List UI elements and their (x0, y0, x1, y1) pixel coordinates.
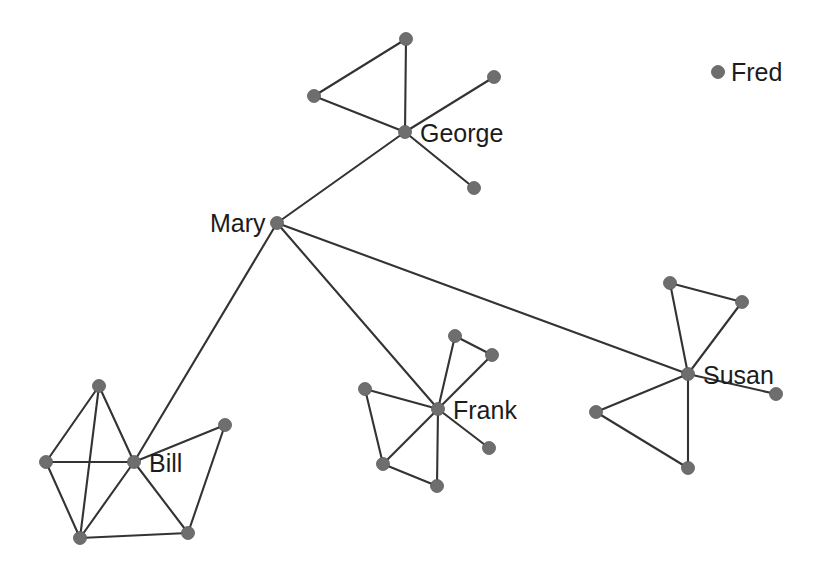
graph-node[interactable] (488, 71, 501, 84)
graph-edge (134, 223, 277, 462)
node-label-frank: Frank (453, 396, 517, 424)
graph-edge (80, 533, 188, 538)
node-label-george: George (420, 119, 503, 147)
graph-edge (277, 132, 405, 223)
graph-node[interactable] (74, 532, 87, 545)
graph-edge (99, 386, 134, 462)
graph-node[interactable] (431, 480, 444, 493)
graph-node-susan[interactable] (682, 368, 695, 381)
graph-edge (383, 464, 437, 486)
graph-node-mary[interactable] (271, 217, 284, 230)
graph-node-george[interactable] (399, 126, 412, 139)
graph-edge (670, 283, 742, 302)
network-graph-canvas: MaryGeorgeBillFrankSusan Fred (0, 0, 818, 582)
graph-node[interactable] (664, 277, 677, 290)
graph-node[interactable] (682, 462, 695, 475)
graph-edge (314, 39, 406, 96)
node-label-bill: Bill (149, 449, 182, 477)
legend-label-fred: Fred (731, 58, 782, 86)
graph-node[interactable] (483, 442, 496, 455)
graph-node[interactable] (40, 456, 53, 469)
node-label-susan: Susan (703, 361, 774, 389)
graph-edge (383, 409, 438, 464)
graph-node[interactable] (93, 380, 106, 393)
graph-edge (365, 389, 383, 464)
legend-dot-fred[interactable] (712, 66, 725, 79)
graph-node[interactable] (377, 458, 390, 471)
graph-node[interactable] (308, 90, 321, 103)
labels-layer: MaryGeorgeBillFrankSusan (149, 119, 774, 477)
graph-edge (277, 223, 438, 409)
graph-edge (437, 409, 438, 486)
graph-edge (188, 425, 225, 533)
graph-edge (596, 374, 688, 412)
graph-node[interactable] (182, 527, 195, 540)
graph-node[interactable] (486, 349, 499, 362)
legend-group: Fred (712, 58, 783, 86)
graph-node[interactable] (449, 330, 462, 343)
graph-node[interactable] (590, 406, 603, 419)
graph-node[interactable] (770, 388, 783, 401)
network-graph-svg: MaryGeorgeBillFrankSusan Fred (0, 0, 818, 582)
graph-edge (365, 389, 438, 409)
graph-node[interactable] (468, 182, 481, 195)
graph-node-frank[interactable] (432, 403, 445, 416)
graph-edge (596, 412, 688, 468)
graph-node[interactable] (736, 296, 749, 309)
graph-edge (670, 283, 688, 374)
graph-node-bill[interactable] (128, 456, 141, 469)
graph-edge (405, 39, 406, 132)
node-label-mary: Mary (210, 209, 266, 237)
graph-edge (46, 462, 80, 538)
graph-node[interactable] (219, 419, 232, 432)
graph-node[interactable] (359, 383, 372, 396)
graph-node[interactable] (400, 33, 413, 46)
graph-edge (277, 223, 688, 374)
graph-edge (314, 96, 405, 132)
